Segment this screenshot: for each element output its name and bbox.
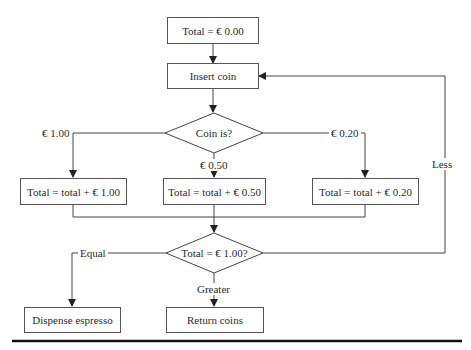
edge-label-less: Less xyxy=(430,158,454,170)
edge-label-equal: Equal xyxy=(78,247,108,259)
arrow-less-loop xyxy=(259,76,445,253)
return-coins-label: Return coins xyxy=(187,314,243,326)
flowchart-connectors xyxy=(0,0,471,350)
edge-label-coin-100: € 1.00 xyxy=(40,127,72,139)
arrow-coin-020 xyxy=(263,133,365,177)
dispense-espresso-box: Dispense espresso xyxy=(24,307,121,333)
add-020-label: Total = total + € 0.20 xyxy=(319,186,412,198)
total-decision-label: Total = € 1.00? xyxy=(166,247,263,259)
add-050-label: Total = total + € 0.50 xyxy=(168,186,261,198)
edge-label-coin-050: € 0.50 xyxy=(198,159,230,171)
dispense-espresso-label: Dispense espresso xyxy=(32,314,112,326)
add-020-box: Total = total + € 0.20 xyxy=(312,178,419,205)
add-100-box: Total = total + € 1.00 xyxy=(20,178,127,205)
start-box: Total = € 0.00 xyxy=(167,17,259,44)
arrow-coin-100 xyxy=(73,133,165,177)
start-box-label: Total = € 0.00 xyxy=(182,25,244,37)
edge-label-greater: Greater xyxy=(195,283,232,295)
return-coins-box: Return coins xyxy=(166,307,264,333)
coin-decision-label: Coin is? xyxy=(165,127,263,139)
add-100-label: Total = total + € 1.00 xyxy=(27,186,120,198)
insert-coin-box: Insert coin xyxy=(167,63,259,89)
edge-label-coin-020: € 0.20 xyxy=(329,127,361,139)
insert-coin-label: Insert coin xyxy=(190,70,237,82)
add-050-box: Total = total + € 0.50 xyxy=(163,178,266,205)
merge-line xyxy=(73,204,365,217)
arrow-equal xyxy=(72,253,166,306)
